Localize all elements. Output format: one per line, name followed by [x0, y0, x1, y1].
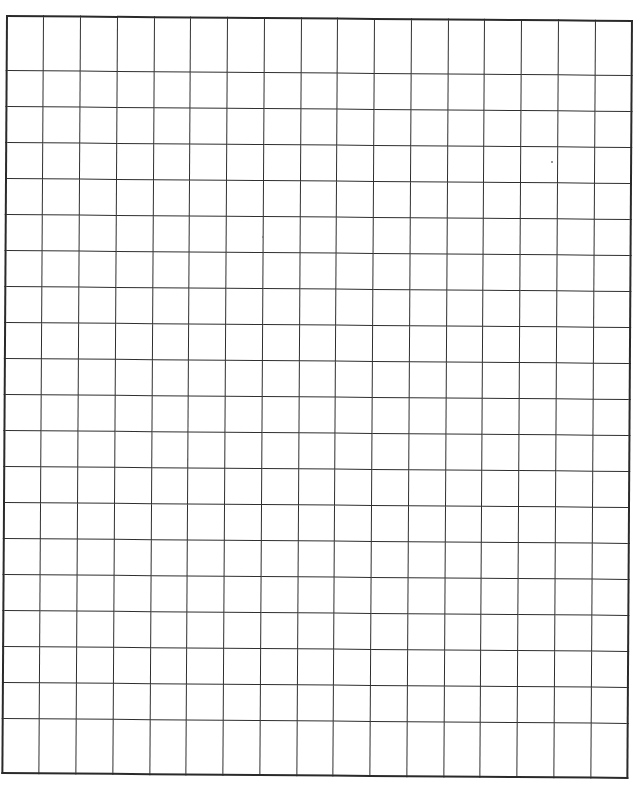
grid-cell: [554, 723, 591, 777]
grid-cell: [300, 217, 337, 253]
grid-cell: [444, 686, 481, 722]
grid-cell: [409, 398, 446, 434]
grid-cell: [42, 287, 79, 323]
grid-cell: [261, 505, 298, 541]
grid-cell: [76, 719, 113, 773]
grid-cell: [41, 431, 78, 467]
grid-cell: [409, 290, 446, 326]
grid-cell: [79, 215, 116, 251]
grid-cell: [410, 145, 447, 181]
grid-cell: [153, 179, 190, 215]
grid-cell: [557, 110, 594, 146]
grid-cell: [335, 505, 372, 541]
grid-cell: [410, 253, 447, 289]
grid-cell: [335, 397, 372, 433]
grid-cell: [186, 720, 223, 774]
grid-cell: [447, 218, 484, 254]
grid-cell: [517, 651, 554, 687]
grid-cell: [264, 72, 301, 108]
grid-cell: [371, 542, 408, 578]
grid-cell: [260, 685, 297, 721]
grid-cell: [557, 183, 594, 219]
grid-cell: [189, 324, 226, 360]
grid-cell: [372, 325, 409, 361]
grid-cell: [186, 684, 223, 720]
grid-cell: [297, 649, 334, 685]
grid-cell: [443, 722, 480, 776]
grid-cell: [188, 504, 225, 540]
grid-cell: [480, 687, 517, 723]
grid-cell: [484, 20, 521, 74]
grid-cell: [372, 397, 409, 433]
grid-cell: [40, 611, 77, 647]
grid-cell: [153, 107, 190, 143]
grid-cell: [334, 541, 371, 577]
grid-cell: [263, 144, 300, 180]
grid-cell: [372, 469, 409, 505]
grid-cell: [408, 470, 445, 506]
grid-cell: [260, 613, 297, 649]
grid-cell: [447, 110, 484, 146]
grid-cell: [444, 578, 481, 614]
grid-cell: [43, 142, 80, 178]
grid-row: [4, 431, 629, 472]
grid-cell: [481, 578, 518, 614]
grid-cell: [41, 395, 78, 431]
grid-row: [3, 683, 628, 724]
grid-cell: [408, 434, 445, 470]
grid-cell: [5, 250, 42, 286]
grid-cell: [150, 576, 187, 612]
grid-cell: [152, 288, 189, 324]
grid-cell: [481, 615, 518, 651]
grid-cell: [335, 469, 372, 505]
graph-paper-grid-container: [1, 15, 633, 779]
grid-cell: [445, 398, 482, 434]
grid-cell: [445, 470, 482, 506]
grid-cell: [445, 506, 482, 542]
grid-cell: [78, 395, 115, 431]
grid-cell: [43, 106, 80, 142]
grid-cell: [558, 20, 595, 74]
grid-cell: [77, 503, 114, 539]
grid-cell: [3, 611, 40, 647]
grid-cell: [555, 435, 592, 471]
grid-cell: [6, 106, 43, 142]
grid-cell: [225, 468, 262, 504]
grid-cell: [409, 326, 446, 362]
grid-cell: [2, 719, 39, 773]
grid-cell: [190, 180, 227, 216]
grid-cell: [115, 359, 152, 395]
grid-cell: [114, 576, 151, 612]
grid-row: [5, 322, 630, 363]
grid-cell: [482, 434, 519, 470]
grid-cell: [481, 651, 518, 687]
grid-cell: [297, 613, 334, 649]
grid-cell: [42, 323, 79, 359]
grid-cell: [6, 178, 43, 214]
grid-cell: [114, 431, 151, 467]
grid-cell: [519, 399, 556, 435]
grid-row: [5, 286, 630, 327]
grid-cell: [446, 290, 483, 326]
grid-cell: [372, 361, 409, 397]
grid-cell: [590, 724, 627, 778]
grid-cell: [224, 612, 261, 648]
grid-cell: [518, 543, 555, 579]
grid-cell: [114, 467, 151, 503]
grid-cell: [519, 326, 556, 362]
grid-cell: [188, 468, 225, 504]
grid-row: [5, 358, 630, 399]
grid-cell: [558, 74, 595, 110]
grid-cell: [446, 326, 483, 362]
grid-cell: [482, 470, 519, 506]
grid-cell: [4, 539, 41, 575]
grid-cell: [5, 322, 42, 358]
grid-cell: [151, 504, 188, 540]
grid-cell: [297, 685, 334, 721]
grid-cell: [264, 18, 301, 72]
grid-cell: [154, 17, 191, 71]
grid-cell: [334, 649, 371, 685]
grid-cell: [189, 288, 226, 324]
grid-cell: [594, 219, 631, 255]
grid-cell: [336, 253, 373, 289]
